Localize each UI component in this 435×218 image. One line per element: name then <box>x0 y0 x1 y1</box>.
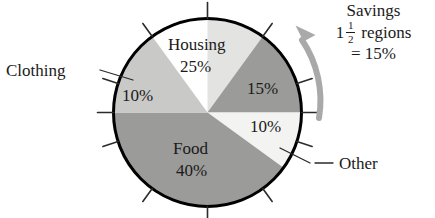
annotation-regions-word: regions <box>361 24 411 42</box>
rim-tick-288 <box>103 79 118 84</box>
callout-label-clothing: Clothing <box>6 62 66 79</box>
slice-value-housing: 25% <box>180 58 211 75</box>
rim-tick-252 <box>103 142 118 147</box>
annotation-line-regions: 112regions <box>312 20 435 45</box>
slice-value-other: 10% <box>250 118 281 135</box>
callout-label-other: Other <box>339 155 378 172</box>
rim-tick-72 <box>297 79 312 84</box>
annotation-whole-number: 1 <box>336 24 345 42</box>
rim-tick-144 <box>263 189 272 202</box>
slice-value-clothing: 10% <box>122 87 153 104</box>
slice-label-food: Food <box>173 140 208 157</box>
annotation-line-savings: Savings <box>312 2 435 20</box>
slice-value-food: 40% <box>176 162 207 179</box>
savings-annotation: Savings 112regions = 15% <box>312 2 435 64</box>
rim-tick-36 <box>263 24 272 37</box>
fraction-denominator: 2 <box>347 34 355 45</box>
figure-container: Housing 25% 15% 10% 10% Food 40% Clothin… <box>0 0 435 218</box>
fraction-one-half: 12 <box>346 20 355 45</box>
rim-tick-324 <box>143 24 152 37</box>
rim-tick-108 <box>297 142 312 147</box>
slice-label-housing: Housing <box>168 36 226 53</box>
slice-value-savings: 15% <box>247 80 278 97</box>
rim-tick-216 <box>143 189 152 202</box>
fraction-numerator: 1 <box>347 20 355 31</box>
annotation-line-equals: = 15% <box>312 45 435 63</box>
